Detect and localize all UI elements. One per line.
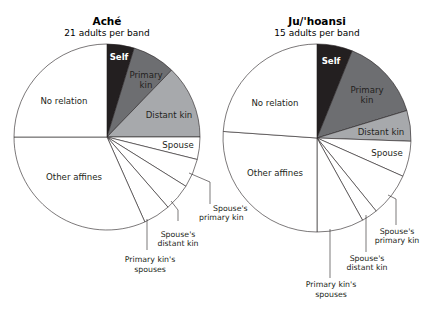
juhoansi-label-primary-kin-1: Primary bbox=[350, 85, 383, 95]
juhoansi-label-no-relation: No relation bbox=[251, 98, 298, 108]
ache-label-spouse-primary-1: Spouse's bbox=[213, 204, 248, 213]
ache-label-spouse: Spouse bbox=[162, 140, 193, 150]
pie-charts: Aché 21 adults per band Self Primary kin… bbox=[0, 0, 430, 310]
juhoansi-label-primary-kin-2: kin bbox=[361, 95, 374, 105]
ache-label-primary-kin-1: Primary bbox=[129, 70, 162, 80]
juhoansi-label-primary-kin-spouses-1: Primary kin's bbox=[306, 280, 356, 289]
ache-label-primary-kin-spouses-2: spouses bbox=[134, 265, 166, 274]
juhoansi-leader-spouse-primary bbox=[388, 195, 396, 225]
ache-subtitle: 21 adults per band bbox=[64, 28, 149, 38]
ache-label-primary-kin-spouses-1: Primary kin's bbox=[125, 255, 175, 264]
juhoansi-label-self: Self bbox=[322, 56, 341, 66]
juhoansi-subtitle: 15 adults per band bbox=[274, 28, 359, 38]
juhoansi-label-primary-kin-spouses-2: spouses bbox=[315, 290, 347, 299]
juhoansi-pie bbox=[223, 44, 411, 232]
juhoansi-label-spouse-distant-1: Spouse's bbox=[350, 254, 385, 263]
pie-slice-no-relation bbox=[223, 44, 317, 138]
juhoansi-label-spouse-distant-2: distant kin bbox=[346, 263, 387, 272]
ache-title: Aché bbox=[93, 15, 122, 27]
ache-leader-spouse-primary bbox=[189, 173, 210, 204]
juhoansi-label-distant-kin: Distant kin bbox=[358, 127, 404, 137]
ache-label-other-affines: Other affines bbox=[46, 172, 102, 182]
ache-label-no-relation: No relation bbox=[40, 96, 87, 106]
juhoansi-label-spouse-primary-1: Spouse's bbox=[380, 227, 415, 236]
pie-slice-no-relation bbox=[14, 44, 107, 137]
ache-label-spouse-distant-2: distant kin bbox=[157, 239, 198, 248]
ache-label-distant-kin: Distant kin bbox=[146, 110, 192, 120]
juhoansi-label-spouse-primary-2: primary kin bbox=[375, 236, 420, 245]
ache-label-self: Self bbox=[110, 52, 129, 62]
ache-label-primary-kin-2: kin bbox=[140, 80, 153, 90]
juhoansi-label-spouse: Spouse bbox=[371, 148, 402, 158]
juhoansi-title: Ju/'hoansi bbox=[287, 15, 346, 27]
ache-leader-spouse-distant bbox=[171, 201, 178, 221]
ache-label-spouse-distant-1: Spouse's bbox=[161, 230, 196, 239]
juhoansi-label-other-affines: Other affines bbox=[247, 168, 303, 178]
ache-label-spouse-primary-2: primary kin bbox=[199, 213, 244, 222]
